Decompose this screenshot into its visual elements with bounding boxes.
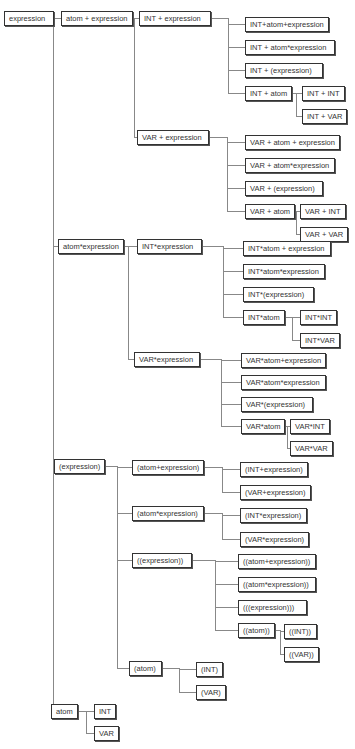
tree-node: INT + expression (139, 11, 211, 26)
tree-node: ((atom)) (238, 623, 275, 638)
connector-line (117, 467, 132, 468)
tree-node: ((VAR)) (284, 647, 319, 662)
connector-line (215, 584, 238, 585)
connector-line (292, 317, 293, 341)
tree-node: expression (4, 11, 54, 26)
tree-node: VAR*INT (290, 419, 330, 434)
connector-line (221, 359, 222, 427)
tree-node: (expression) (54, 459, 105, 474)
tree-node: (atom+expression) (132, 460, 204, 475)
connector-line (77, 711, 86, 712)
connector-line (222, 539, 240, 540)
tree-node: INT*INT (300, 310, 337, 325)
connector-line (53, 18, 61, 19)
connector-line (179, 692, 196, 693)
connector-line (223, 271, 243, 272)
connector-line (222, 492, 240, 493)
tree-node: (VAR) (196, 685, 226, 700)
connector-line (221, 382, 241, 383)
connector-line (179, 669, 196, 670)
connector-line (296, 211, 297, 235)
tree-node: VAR*atom (241, 419, 285, 434)
connector-line (200, 359, 221, 360)
connector-line (228, 24, 245, 25)
connector-line (53, 18, 54, 712)
connector-line (228, 70, 245, 71)
connector-line (296, 93, 297, 117)
tree-node: (atom*expression) (132, 506, 204, 521)
connector-line (280, 630, 281, 655)
connector-line (117, 668, 129, 669)
tree-node: VAR*(expression) (241, 397, 313, 412)
tree-node: INT + atom (245, 86, 292, 101)
connector-line (162, 668, 179, 669)
connector-line (222, 469, 240, 470)
tree-node: VAR + (expression) (245, 181, 323, 196)
tree-node: ((INT)) (284, 624, 317, 639)
connector-line (86, 711, 94, 712)
connector-line (228, 18, 229, 94)
tree-node: VAR + expression (137, 130, 209, 145)
tree-node: INT*atom + expression (243, 241, 331, 256)
tree-node: INT + (expression) (245, 63, 323, 78)
tree-node: (((expression))) (238, 600, 307, 615)
connector-line (223, 317, 243, 318)
tree-node: VAR*expression (134, 352, 200, 367)
connector-line (227, 165, 245, 166)
tree-node: (INT+expression) (240, 462, 308, 477)
tree-node: INT*atom*expression (243, 264, 325, 279)
connector-line (192, 560, 215, 561)
tree-node: ((atom+expression)) (238, 554, 316, 569)
connector-line (227, 137, 228, 212)
tree-node: VAR*atom+expression (241, 353, 326, 368)
connector-line (215, 607, 238, 608)
tree-node: INT*(expression) (243, 287, 314, 302)
connector-line (209, 137, 227, 138)
tree-node: INT+atom+expression (245, 17, 329, 32)
tree-node: VAR + atom (245, 204, 295, 219)
connector-line (223, 248, 243, 249)
connector-line (228, 93, 245, 94)
tree-node: (INT*expression) (240, 508, 307, 523)
connector-line (204, 513, 222, 514)
connector-line (287, 426, 288, 449)
connector-line (222, 513, 223, 540)
connector-line (228, 47, 245, 48)
connector-line (221, 426, 241, 427)
tree-node: (VAR*expression) (240, 532, 309, 547)
connector-line (104, 466, 117, 467)
tree-node: atom (51, 704, 78, 719)
connector-line (292, 317, 300, 318)
connector-line (223, 246, 224, 318)
connector-line (128, 246, 137, 247)
tree-node: INT + atom*expression (245, 40, 335, 55)
connector-line (117, 560, 132, 561)
tree-node: INT (94, 704, 116, 719)
tree-node: (VAR+expression) (240, 485, 311, 500)
tree-node: VAR + VAR (300, 227, 348, 242)
connector-line (221, 360, 241, 361)
connector-line (204, 467, 222, 468)
tree-node: INT*expression (137, 239, 202, 254)
tree-node: (INT) (196, 662, 223, 677)
connector-line (227, 188, 245, 189)
tree-node: ((expression)) (132, 553, 192, 568)
connector-line (215, 560, 216, 631)
tree-node: (atom) (129, 661, 162, 676)
tree-node: INT + VAR (302, 109, 347, 124)
connector-line (117, 513, 132, 514)
connector-line (211, 18, 228, 19)
derivation-tree-diagram: expressionatom + expressionINT + express… (0, 0, 355, 749)
connector-line (223, 294, 243, 295)
connector-line (86, 711, 87, 734)
tree-node: INT*VAR (300, 333, 340, 348)
tree-node: VAR + atom + expression (245, 135, 340, 150)
connector-line (227, 211, 245, 212)
connector-line (227, 142, 245, 143)
tree-node: ((atom*expression)) (238, 577, 316, 592)
tree-node: VAR + INT (300, 204, 346, 219)
connector-line (128, 246, 129, 360)
connector-line (179, 668, 180, 693)
tree-node: VAR + atom*expression (245, 158, 335, 173)
connector-line (86, 733, 94, 734)
